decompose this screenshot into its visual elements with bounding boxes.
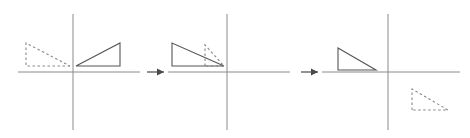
figure-canvas <box>0 0 470 138</box>
solid-triangle <box>172 43 224 66</box>
panel-3 <box>322 14 460 130</box>
dashed-triangle <box>412 89 448 110</box>
dashed-triangle <box>26 43 70 66</box>
solid-triangle <box>76 43 120 66</box>
solid-triangle <box>338 48 376 70</box>
dashed-triangle <box>205 45 224 66</box>
panel-1 <box>18 14 140 130</box>
triangle-reflection-diagram <box>0 0 470 138</box>
panel-2 <box>168 14 290 130</box>
